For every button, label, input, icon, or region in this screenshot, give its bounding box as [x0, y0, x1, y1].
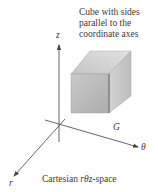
z-axis-label: z	[56, 30, 60, 41]
r-axis-label: r	[9, 178, 13, 189]
cube-annotation-line-2: parallel to the	[79, 18, 131, 29]
caption-suffix: -space	[92, 174, 116, 184]
cube-annotation-line-3: coordinate axes	[79, 29, 138, 40]
r-axis	[14, 119, 65, 176]
cube-front-face	[71, 74, 109, 113]
figure-caption: Cartesian rθz-space	[42, 174, 117, 185]
cube-annotation-line-1: Cube with sides	[79, 7, 140, 18]
caption-italic: rθz	[80, 174, 92, 184]
theta-axis-label: θ	[141, 142, 146, 153]
caption-prefix: Cartesian	[42, 174, 80, 184]
region-label-g: G	[113, 122, 120, 133]
cube-g	[71, 51, 131, 113]
